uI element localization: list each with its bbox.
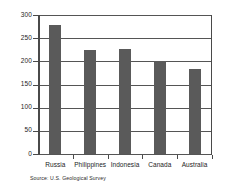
y-axis-tick-label: 150 <box>21 81 32 88</box>
bar <box>119 49 131 154</box>
y-axis-tick-label: 50 <box>25 127 32 134</box>
x-axis-label: Philippines <box>73 161 108 168</box>
y-axis-tick-label: 100 <box>21 104 32 111</box>
x-axis-label: Russia <box>38 161 73 168</box>
x-axis-label: Canada <box>142 161 177 168</box>
plot-area <box>38 15 212 154</box>
bar <box>84 50 96 154</box>
x-axis-label: Australia <box>177 161 212 168</box>
x-axis-tick <box>73 155 74 159</box>
x-axis-tick <box>177 155 178 159</box>
y-axis-tick-label: 250 <box>21 35 32 42</box>
x-axis-tick <box>108 155 109 159</box>
bar <box>189 69 201 154</box>
bar-chart-figure: 050100150200250300 RussiaPhilippinesIndo… <box>0 0 228 194</box>
y-axis-tick-label: 300 <box>21 12 32 19</box>
x-axis-baseline <box>33 154 212 155</box>
x-axis-tick <box>212 155 213 159</box>
bar <box>49 25 61 154</box>
bar <box>154 61 166 154</box>
x-axis-label: Indonesia <box>108 161 143 168</box>
y-axis-tick-label: 200 <box>21 58 32 65</box>
x-axis-tick <box>142 155 143 159</box>
source-note: Source: U.S. Geological Survey <box>30 175 106 181</box>
y-axis-tick-label: 0 <box>28 151 32 158</box>
